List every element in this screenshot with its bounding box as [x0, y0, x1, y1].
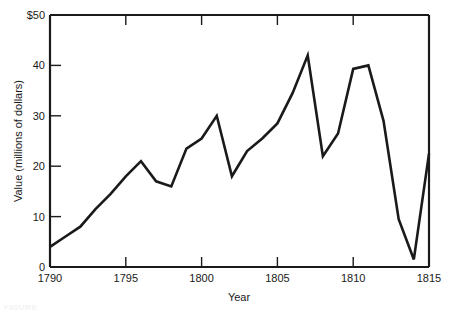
- x-tick-label-1805: 1805: [265, 272, 289, 284]
- y-tick-label-40: 40: [33, 59, 45, 71]
- x-tick-label-1790: 1790: [38, 272, 62, 284]
- x-tick-label-1815: 1815: [417, 272, 441, 284]
- figure-container: 0 10 20 30 40 $50 1790 1795 1800 1805 18…: [0, 0, 452, 313]
- y-tick-label-10: 10: [33, 211, 45, 223]
- x-axis-ticks-bottom: [126, 257, 353, 267]
- x-axis-ticks-top: [126, 15, 353, 25]
- x-tick-label-1800: 1800: [189, 272, 213, 284]
- y-tick-label-20: 20: [33, 160, 45, 172]
- x-tick-label-1810: 1810: [341, 272, 365, 284]
- figure-caption-partial: FIGURE: [4, 303, 37, 312]
- data-series-line: [50, 55, 429, 259]
- plot-frame: [50, 15, 429, 267]
- line-chart: 0 10 20 30 40 $50 1790 1795 1800 1805 18…: [0, 0, 452, 313]
- y-axis-title: Value (millions of dollars): [12, 80, 24, 202]
- y-axis-ticks: [50, 65, 61, 216]
- y-tick-label-30: 30: [33, 110, 45, 122]
- y-tick-label-50: $50: [27, 9, 45, 21]
- x-tick-label-1795: 1795: [114, 272, 138, 284]
- x-axis-title: Year: [228, 291, 251, 303]
